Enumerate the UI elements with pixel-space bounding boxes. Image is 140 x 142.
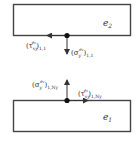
normal-label-bottom: (σye₁)1,Ny bbox=[32, 79, 58, 90]
shear-label-top: (τxye₂)1,1 bbox=[26, 40, 46, 51]
normal-label-top: (σye₂)1,1 bbox=[71, 47, 94, 58]
element-e2-label: e2 bbox=[103, 18, 112, 29]
element-e1-label: e1 bbox=[103, 112, 112, 123]
element-e2-box bbox=[14, 5, 131, 36]
node-bottom bbox=[64, 98, 69, 103]
element-e1-box bbox=[14, 101, 131, 132]
shear-label-bottom: (τxye₁)1,Ny bbox=[78, 88, 102, 99]
stress-interface-diagram: e2 (τxye₂)1,1 (σye₂)1,1 e1 (σye₁)1,Ny (τ… bbox=[0, 0, 140, 142]
node-top bbox=[64, 33, 69, 38]
